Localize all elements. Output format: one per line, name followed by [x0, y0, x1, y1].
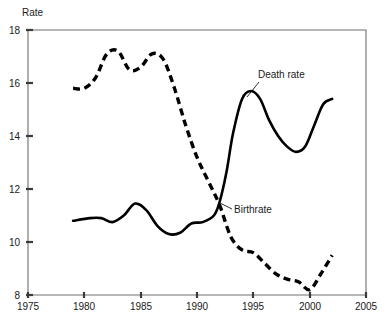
- frame-border: [28, 30, 366, 295]
- y-tick-label-8: 8: [14, 290, 20, 301]
- y-tick-label-18: 18: [9, 25, 21, 36]
- y-tick-label-16: 16: [9, 78, 21, 89]
- x-tick-label-1980: 1980: [73, 301, 96, 312]
- series-label-birthrate: Birthrate: [234, 204, 272, 215]
- y-tick-label-12: 12: [9, 184, 21, 195]
- x-tick-label-1990: 1990: [186, 301, 209, 312]
- data-series-group: [73, 50, 332, 290]
- y-tick-label-14: 14: [9, 131, 21, 142]
- x-tick-label-2005: 2005: [355, 301, 378, 312]
- y-axis-tick-labels: 8 10 12 14 16 18: [9, 25, 21, 301]
- chart-container: 8 10 12 14 16 18 Rate 1975 1980 1985 199…: [0, 0, 392, 313]
- series-annotations: Death rate Birthrate: [220, 69, 305, 215]
- plot-frame: [28, 30, 366, 295]
- x-tick-label-1995: 1995: [242, 301, 265, 312]
- x-tick-label-1985: 1985: [130, 301, 153, 312]
- y-axis-title: Rate: [22, 7, 44, 18]
- x-axis-tick-labels: 1975 1980 1985 1990 1995 2000 2005: [17, 301, 378, 312]
- series-line-death-rate: [73, 91, 332, 235]
- y-axis-ticks: [26, 30, 33, 295]
- y-tick-label-10: 10: [9, 237, 21, 248]
- x-tick-label-2000: 2000: [299, 301, 322, 312]
- series-line-birthrate: [73, 50, 332, 290]
- birthrate-death-rate-line-chart: 8 10 12 14 16 18 Rate 1975 1980 1985 199…: [0, 0, 392, 313]
- series-label-death-rate: Death rate: [258, 69, 305, 80]
- x-tick-label-1975: 1975: [17, 301, 40, 312]
